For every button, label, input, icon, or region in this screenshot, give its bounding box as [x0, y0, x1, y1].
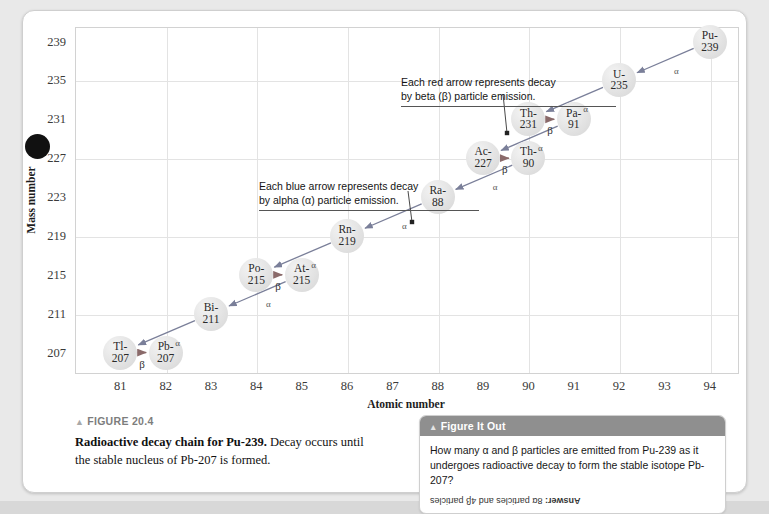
answer-prefix: Answer:: [545, 496, 581, 506]
nuclide-number: 215: [248, 275, 265, 287]
y-axis-label: Mass number: [25, 166, 37, 233]
annotation-blue-line1: Each blue arrow represents decay: [259, 179, 479, 193]
annotation-blue-note: Each blue arrow represents decay by alph…: [259, 179, 479, 211]
figure-it-out-question-line1: How many α and β particles are emitted f…: [430, 443, 715, 458]
decay-chain-plot: Mass number Atomic number Each red arrow…: [75, 27, 737, 372]
nuclide-node-th-231: Th-231: [511, 102, 545, 136]
figure-card: Mass number Atomic number Each red arrow…: [22, 10, 747, 493]
decay-label-beta: β: [502, 163, 508, 175]
x-axis-tick: 86: [341, 379, 354, 394]
x-axis-tick: 88: [431, 379, 444, 394]
annotation-red-line2: by beta (β) particle emission.: [401, 89, 616, 103]
y-axis-tick: 239: [47, 34, 66, 49]
annotation-leader-endpoint: [505, 131, 509, 135]
figure-caption-bold: Radioactive decay chain for Pu-239.: [75, 435, 267, 449]
x-axis-label: Atomic number: [367, 398, 445, 410]
annotation-blue-line2: by alpha (α) particle emission.: [259, 193, 479, 207]
figure-it-out-question-line2: undergoes radioactive decay to form the …: [430, 458, 715, 488]
x-axis-tick: 84: [250, 379, 263, 394]
y-axis-tick: 219: [47, 228, 66, 243]
y-axis-tick: 231: [47, 112, 66, 127]
figure-it-out-title: Figure It Out: [441, 420, 506, 432]
x-axis-tick: 92: [613, 379, 626, 394]
nuclide-number: 207: [112, 353, 129, 365]
figure-number: ▲FIGURE 20.4: [75, 415, 375, 427]
annotation-red-note: Each red arrow represents decay by beta …: [401, 75, 616, 107]
x-axis-tick: 87: [386, 379, 399, 394]
x-axis-tick: 89: [477, 379, 490, 394]
nuclide-number: 90: [523, 158, 535, 170]
nuclide-node-rn-219: Rn-219: [330, 219, 364, 253]
nuclide-node-bi-211: Bi-211: [194, 297, 228, 331]
x-axis-tick: 94: [704, 379, 717, 394]
decay-label-beta: β: [139, 358, 145, 370]
figure-caption-text: Radioactive decay chain for Pu-239. Deca…: [75, 434, 375, 470]
decay-label-alpha: α: [538, 143, 543, 153]
nuclide-number: 211: [203, 314, 220, 326]
x-axis-tick: 91: [568, 379, 581, 394]
page-bullet-marker: [25, 134, 50, 159]
triangle-icon: ▲: [75, 417, 84, 427]
nuclide-number: 231: [520, 119, 537, 131]
decay-label-beta: β: [547, 124, 553, 136]
decay-label-alpha: α: [311, 260, 316, 270]
figure-it-out-box: ▲Figure It Out How many α and β particle…: [419, 415, 726, 514]
figure-it-out-body: How many α and β particles are emitted f…: [420, 436, 725, 513]
y-axis-tick: 215: [47, 267, 66, 282]
x-axis-tick: 81: [114, 379, 127, 394]
annotation-red-line1: Each red arrow represents decay: [401, 75, 616, 89]
y-axis-tick: 211: [48, 306, 66, 321]
decay-label-alpha: α: [493, 182, 498, 192]
decay-label-alpha: α: [175, 338, 180, 348]
y-axis-tick: 235: [47, 73, 66, 88]
annotation-leader-endpoint: [410, 220, 414, 224]
figure-number-text: FIGURE 20.4: [87, 415, 153, 427]
decay-label-alpha: α: [674, 66, 679, 76]
nuclide-number: 219: [338, 236, 355, 248]
decay-label-alpha: α: [266, 299, 271, 309]
nuclide-number: 215: [293, 275, 310, 287]
nuclide-number: 227: [474, 158, 491, 170]
triangle-icon: ▲: [429, 422, 438, 432]
x-axis-tick: 83: [205, 379, 218, 394]
decay-label-beta: β: [275, 280, 281, 292]
answer-text: 8α particles and 4β particles: [430, 496, 545, 506]
nuclide-number: 91: [568, 119, 580, 131]
x-axis-tick: 93: [658, 379, 671, 394]
nuclide-node-pu-239: Pu-239: [693, 25, 727, 59]
y-axis-tick: 227: [47, 151, 66, 166]
nuclide-node-po-215: Po-215: [239, 258, 273, 292]
x-axis-tick: 82: [159, 379, 172, 394]
figure-caption-block: ▲FIGURE 20.4 Radioactive decay chain for…: [75, 415, 375, 470]
y-axis-tick: 223: [47, 190, 66, 205]
decay-label-alpha: α: [402, 221, 407, 231]
figure-it-out-header: ▲Figure It Out: [420, 416, 725, 436]
y-axis-tick: 207: [47, 345, 66, 360]
nuclide-node-tl-207: Tl-207: [103, 336, 137, 370]
figure-it-out-answer: Answer: 8α particles and 4β particles: [430, 494, 715, 507]
x-axis-tick: 90: [522, 379, 535, 394]
nuclide-number: 239: [701, 42, 718, 54]
x-axis-tick: 85: [295, 379, 308, 394]
nuclide-node-ac-227: Ac-227: [466, 141, 500, 175]
decay-arrow-alpha-pu-239-to-u-235: [637, 48, 694, 72]
nuclide-number: 207: [157, 353, 174, 365]
